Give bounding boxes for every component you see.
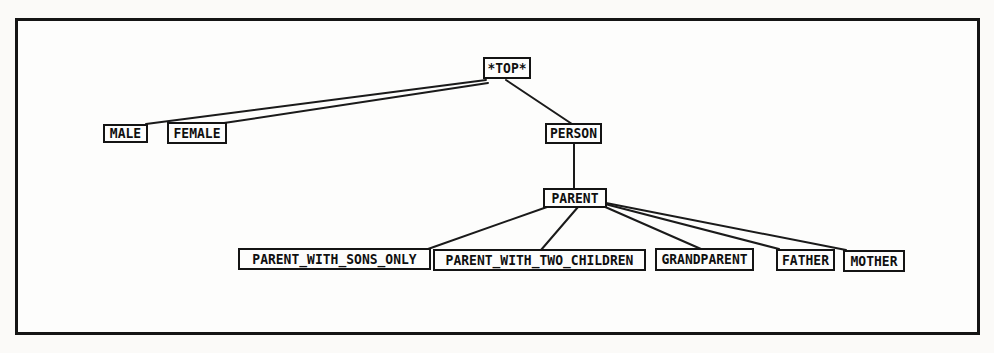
node-person[interactable]: PERSON: [545, 123, 602, 144]
taxonomy-browser: *TOP*MALEFEMALEPERSONPARENTPARENT_WITH_S…: [0, 0, 994, 353]
node-label: FATHER: [782, 252, 829, 268]
node-male[interactable]: MALE: [103, 124, 148, 143]
node-label: FEMALE: [174, 125, 221, 141]
node-label: *TOP*: [487, 60, 526, 76]
node-pwtc[interactable]: PARENT_WITH_TWO_CHILDREN: [433, 249, 646, 271]
node-label: PERSON: [550, 126, 597, 142]
node-female[interactable]: FEMALE: [167, 122, 227, 144]
node-grandparent[interactable]: GRANDPARENT: [655, 248, 754, 271]
node-label: PARENT_WITH_TWO_CHILDREN: [446, 252, 634, 268]
node-mother[interactable]: MOTHER: [843, 250, 905, 272]
node-father[interactable]: FATHER: [776, 249, 835, 271]
node-label: PARENT: [552, 190, 599, 206]
node-pwso[interactable]: PARENT_WITH_SONS_ONLY: [238, 248, 431, 270]
node-label: MOTHER: [851, 253, 898, 269]
node-label: GRANDPARENT: [661, 252, 747, 268]
node-parent[interactable]: PARENT: [543, 188, 607, 208]
node-label: MALE: [110, 126, 141, 142]
node-top[interactable]: *TOP*: [483, 57, 531, 79]
node-label: PARENT_WITH_SONS_ONLY: [252, 251, 416, 267]
